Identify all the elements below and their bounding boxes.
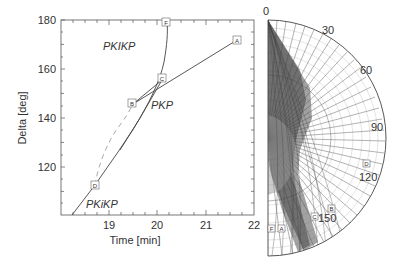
point-marker-b: B	[128, 99, 136, 107]
angle-label-60: 60	[360, 64, 372, 76]
polar-point-b: B	[328, 205, 335, 212]
x-tick-label: 22	[248, 219, 260, 231]
point-marker-a: A	[233, 36, 241, 44]
svg-text:B: B	[130, 101, 134, 107]
travel-time-plot: 180 160 140 120 19 20 21 22 Time [min] D…	[16, 14, 260, 246]
x-axis-title: Time [min]	[110, 234, 161, 246]
point-marker-d: D	[91, 181, 99, 189]
dashed-branch-curve	[95, 104, 133, 185]
pkp-ab-curve	[133, 40, 237, 104]
angle-label-30: 30	[322, 24, 334, 36]
svg-text:F: F	[270, 226, 274, 232]
angle-label-90: 90	[371, 121, 383, 133]
svg-text:D: D	[364, 161, 369, 167]
y-tick-label: 120	[38, 161, 56, 173]
polar-point-f: F	[268, 225, 275, 232]
svg-text:B: B	[329, 206, 333, 212]
plot-frame	[61, 20, 254, 215]
x-tick-label: 21	[200, 219, 212, 231]
figure: 180 160 140 120 19 20 21 22 Time [min] D…	[0, 0, 400, 259]
y-tick-label: 140	[38, 112, 56, 124]
x-tick-label: 20	[151, 219, 163, 231]
svg-text:C: C	[160, 76, 165, 82]
svg-text:C: C	[312, 214, 317, 220]
point-marker-c: C	[158, 74, 166, 82]
polar-point-d: D	[363, 160, 370, 167]
angle-label-0: 0	[263, 5, 269, 17]
phase-label-pkikp: PKIKP	[103, 40, 136, 52]
y-tick-label: 160	[38, 63, 56, 75]
angle-label-120: 120	[359, 171, 377, 183]
phase-label-pkikp-inner: PKiKP	[86, 198, 118, 210]
raypath-polar-plot: 0 30 60 90 120 150 D B C F A	[158, 5, 386, 256]
polar-point-a: A	[278, 225, 285, 232]
angle-label-150: 150	[318, 212, 336, 224]
x-tick-label: 19	[103, 219, 115, 231]
point-marker-f: F	[162, 18, 170, 26]
y-axis-title: Delta [deg]	[16, 91, 28, 144]
phase-label-pkp: PKP	[151, 99, 174, 111]
svg-text:D: D	[93, 183, 98, 189]
svg-text:A: A	[235, 38, 239, 44]
svg-text:F: F	[164, 20, 168, 26]
polar-point-c: C	[311, 213, 318, 220]
y-tick-label: 180	[38, 14, 56, 26]
svg-text:A: A	[279, 226, 283, 232]
